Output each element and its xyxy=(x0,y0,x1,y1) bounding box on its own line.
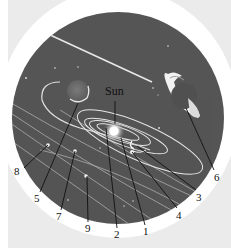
callout-label-3: 3 xyxy=(196,192,202,203)
callout-label-5: 5 xyxy=(34,193,40,204)
callout-label-1: 1 xyxy=(143,226,149,237)
callout-label-8: 8 xyxy=(14,166,20,177)
callout-label-9: 9 xyxy=(85,223,91,234)
callout-label-2: 2 xyxy=(114,229,120,240)
callout-label-7: 7 xyxy=(56,211,62,222)
sun-label: Sun xyxy=(105,85,124,97)
callout-label-4: 4 xyxy=(176,210,182,221)
space-disc xyxy=(12,12,224,224)
solar-system-figure: Sun 8 5 7 9 2 1 4 3 6 xyxy=(0,0,231,248)
solar-system-illustration xyxy=(0,0,231,248)
callout-label-6: 6 xyxy=(214,172,220,183)
